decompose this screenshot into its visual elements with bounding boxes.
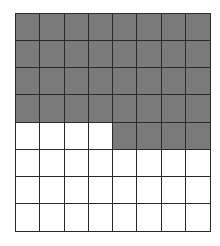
empty-cell [186, 177, 210, 204]
empty-cell [65, 204, 89, 231]
empty-cell [113, 204, 137, 231]
shaded-cell [16, 95, 40, 122]
empty-cell [40, 150, 64, 177]
shaded-cell [113, 123, 137, 150]
empty-cell [40, 177, 64, 204]
empty-cell [162, 150, 186, 177]
shaded-cell [162, 14, 186, 41]
empty-cell [162, 177, 186, 204]
shaded-cell [89, 14, 113, 41]
diagram-canvas [0, 0, 220, 246]
empty-cell [16, 177, 40, 204]
shaded-cell [162, 68, 186, 95]
empty-cell [16, 123, 40, 150]
shaded-cell [65, 68, 89, 95]
shaded-cell [16, 14, 40, 41]
shaded-cell [186, 95, 210, 122]
shaded-cell [186, 123, 210, 150]
shaded-cell [40, 41, 64, 68]
shaded-cell [162, 123, 186, 150]
empty-cell [113, 150, 137, 177]
empty-cell [65, 177, 89, 204]
empty-cell [40, 204, 64, 231]
empty-cell [137, 177, 161, 204]
shaded-cell [113, 14, 137, 41]
empty-cell [89, 123, 113, 150]
shaded-cell [137, 123, 161, 150]
shaded-cell [16, 41, 40, 68]
empty-cell [186, 150, 210, 177]
shaded-cell [162, 95, 186, 122]
empty-cell [65, 123, 89, 150]
empty-cell [89, 204, 113, 231]
empty-cell [89, 150, 113, 177]
hundred-style-grid [15, 13, 211, 232]
empty-cell [113, 177, 137, 204]
empty-cell [40, 123, 64, 150]
shaded-cell [186, 41, 210, 68]
shaded-cell [137, 14, 161, 41]
shaded-cell [40, 68, 64, 95]
shaded-cell [89, 68, 113, 95]
empty-cell [16, 150, 40, 177]
shaded-cell [65, 95, 89, 122]
shaded-cell [137, 41, 161, 68]
shaded-cell [65, 14, 89, 41]
shaded-cell [40, 14, 64, 41]
empty-cell [162, 204, 186, 231]
empty-cell [137, 150, 161, 177]
shaded-cell [137, 95, 161, 122]
shaded-cell [89, 41, 113, 68]
shaded-cell [186, 68, 210, 95]
shaded-cell [113, 41, 137, 68]
shaded-cell [113, 95, 137, 122]
shaded-cell [162, 41, 186, 68]
empty-cell [137, 204, 161, 231]
shaded-cell [40, 95, 64, 122]
shaded-cell [89, 95, 113, 122]
shaded-cell [113, 68, 137, 95]
shaded-cell [186, 14, 210, 41]
empty-cell [186, 204, 210, 231]
shaded-cell [65, 41, 89, 68]
shaded-cell [16, 68, 40, 95]
empty-cell [89, 177, 113, 204]
empty-cell [16, 204, 40, 231]
shaded-cell [137, 68, 161, 95]
empty-cell [65, 150, 89, 177]
